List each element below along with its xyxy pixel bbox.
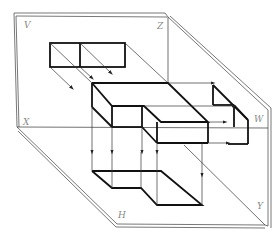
front-view bbox=[50, 43, 125, 67]
projection-diagram: V Z X W H Y bbox=[0, 0, 280, 240]
label-v: V bbox=[24, 20, 32, 30]
h-projectors bbox=[92, 107, 202, 175]
y-axis-line bbox=[184, 145, 265, 225]
top-view bbox=[92, 152, 202, 205]
stepped-block bbox=[92, 83, 208, 143]
label-x: X bbox=[22, 117, 30, 127]
label-y: Y bbox=[257, 201, 264, 211]
v-projectors bbox=[50, 43, 168, 88]
side-view bbox=[213, 85, 248, 144]
label-z: Z bbox=[156, 21, 164, 31]
label-h: H bbox=[117, 210, 126, 220]
label-w: W bbox=[254, 114, 264, 124]
h-plane bbox=[17, 127, 268, 228]
v-plane bbox=[14, 13, 168, 127]
